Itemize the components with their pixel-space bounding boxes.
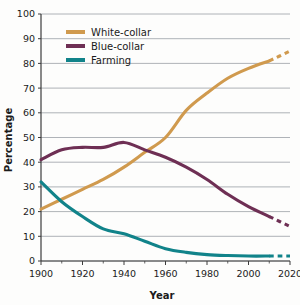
y-tick-label-90: 90 bbox=[23, 33, 35, 44]
chart-container: 1009080706050403020100 19001920194019601… bbox=[0, 0, 300, 305]
y-axis-title: Percentage bbox=[3, 108, 14, 173]
y-tick-label-50: 50 bbox=[23, 132, 35, 143]
x-tick-label-1900: 1900 bbox=[29, 268, 53, 279]
y-tick-label-40: 40 bbox=[23, 157, 35, 168]
x-tick-label-2020: 2020 bbox=[278, 268, 300, 279]
y-tick-label-70: 70 bbox=[23, 83, 35, 94]
y-tick-label-30: 30 bbox=[23, 181, 35, 192]
x-tick-label-1960: 1960 bbox=[153, 268, 177, 279]
legend-label-white-collar: White-collar bbox=[91, 27, 152, 38]
x-axis-title: Year bbox=[149, 290, 175, 301]
x-tick-label-1980: 1980 bbox=[195, 268, 219, 279]
y-tick-label-80: 80 bbox=[23, 58, 35, 69]
y-tick-label-10: 10 bbox=[23, 231, 35, 242]
x-tick-labels-group: 1900192019401960198020002020 bbox=[29, 268, 300, 279]
y-tick-label-20: 20 bbox=[23, 206, 35, 217]
x-tick-label-1920: 1920 bbox=[70, 268, 94, 279]
legend-label-blue-collar: Blue-collar bbox=[91, 41, 145, 52]
x-tick-label-1940: 1940 bbox=[112, 268, 136, 279]
x-tick-label-2000: 2000 bbox=[236, 268, 260, 279]
y-tick-label-100: 100 bbox=[17, 8, 35, 19]
employment-trend-line-chart: 1009080706050403020100 19001920194019601… bbox=[0, 0, 300, 305]
y-tick-label-0: 0 bbox=[29, 255, 35, 266]
y-tick-label-60: 60 bbox=[23, 107, 35, 118]
legend-label-farming: Farming bbox=[91, 55, 131, 66]
